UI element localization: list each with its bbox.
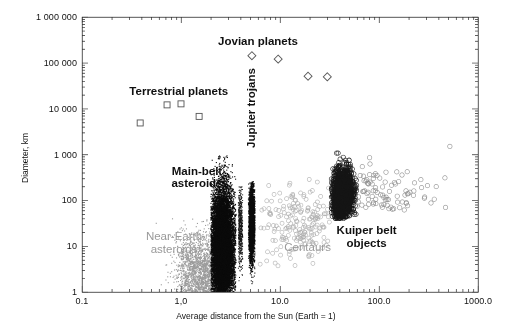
- plot-canvas: [0, 0, 512, 326]
- scatter-plot-figure: 1101001 00010 000100 0001 000 000 0.11,0…: [0, 0, 512, 326]
